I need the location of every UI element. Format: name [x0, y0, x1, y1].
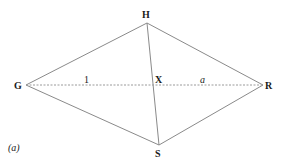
- segment-label-GX: 1: [84, 74, 89, 85]
- segment-label-XR: a: [200, 74, 205, 85]
- kite-diagram: G H X R S 1 a (a): [0, 0, 287, 166]
- label-S: S: [155, 148, 161, 159]
- label-G: G: [14, 80, 22, 91]
- edge-HR: [147, 23, 263, 85]
- edge-RS: [159, 85, 263, 145]
- label-R: R: [265, 80, 273, 91]
- figure-caption: (a): [8, 142, 20, 154]
- edge-SG: [26, 85, 159, 145]
- label-H: H: [142, 9, 150, 20]
- label-X: X: [155, 74, 163, 85]
